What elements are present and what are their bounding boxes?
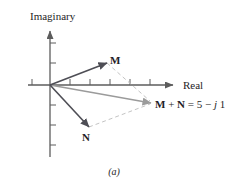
sum-label-n: N (177, 98, 185, 110)
sum-vector-label: M + N = 5 − j 1 (155, 98, 225, 110)
construction-lines (89, 63, 150, 127)
sum-label-imag: 1 (220, 98, 226, 110)
vector-m-label: M (110, 54, 121, 66)
sum-label-plus: + (168, 98, 177, 110)
complex-plane-figure: Imaginary Real M N M + N = 5 − j 1 (a) (0, 0, 230, 179)
vectors (50, 63, 151, 127)
sum-label-m: M (155, 98, 166, 110)
vector-diagram-canvas: Imaginary Real M N M + N = 5 − j 1 (a) (0, 0, 230, 179)
dashed-line-n-to-sum (89, 104, 150, 127)
vector-n-label: N (82, 131, 90, 143)
figure-caption: (a) (108, 166, 120, 178)
sum-label-eq: = 5 − (188, 98, 214, 110)
vector-m (50, 63, 107, 85)
real-axis-label: Real (183, 79, 203, 91)
dashed-line-m-to-sum (107, 63, 150, 101)
imaginary-axis-label: Imaginary (30, 10, 76, 22)
